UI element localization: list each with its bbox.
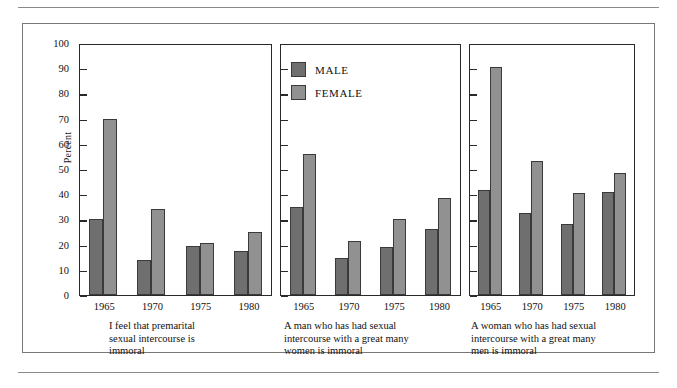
axis-tick-mark bbox=[470, 145, 477, 146]
bar-female bbox=[531, 161, 543, 295]
axis-tick-mark bbox=[80, 195, 87, 196]
axis-tick-mark bbox=[80, 170, 87, 171]
bar-female bbox=[490, 67, 502, 295]
bar-male bbox=[425, 229, 438, 295]
panel-caption: I feel that premaritalsexual intercourse… bbox=[109, 320, 195, 358]
axis-tick-mark bbox=[281, 246, 288, 247]
bar-female bbox=[151, 209, 165, 295]
bottom-horizontal-rule bbox=[18, 372, 659, 373]
x-tick-label: 1970 bbox=[522, 301, 543, 312]
axis-tick-mark bbox=[80, 145, 87, 146]
axis-tick-mark bbox=[80, 120, 87, 121]
bar-female bbox=[573, 193, 585, 295]
x-axis-labels: 1965197019751980 bbox=[281, 301, 460, 315]
bar-female bbox=[348, 241, 361, 295]
x-tick-label: 1980 bbox=[429, 301, 450, 312]
bar-male bbox=[137, 260, 151, 295]
y-tick-label: 10 bbox=[45, 266, 69, 276]
chart-panel: 1965197019751980 bbox=[79, 44, 272, 296]
axis-tick-mark bbox=[470, 271, 477, 272]
bar-female bbox=[393, 219, 406, 295]
legend-item-female: FEMALE bbox=[291, 85, 363, 100]
panel-caption-line: intercourse with a great many bbox=[284, 333, 409, 346]
y-tick-label: 90 bbox=[45, 64, 69, 74]
bar-male bbox=[519, 213, 531, 295]
bar-male bbox=[186, 246, 200, 295]
bar-female bbox=[248, 232, 262, 295]
y-tick-label: 70 bbox=[45, 115, 69, 125]
legend-label-female: FEMALE bbox=[315, 87, 363, 99]
panel-caption-line: intercourse with a great many bbox=[471, 333, 596, 346]
axis-tick-mark bbox=[281, 69, 288, 70]
panel-plot-area bbox=[470, 45, 634, 295]
bar-female bbox=[200, 243, 214, 295]
x-tick-label: 1965 bbox=[94, 301, 115, 312]
panel-caption: A man who has had sexualintercourse with… bbox=[284, 320, 409, 358]
axis-tick-mark bbox=[80, 246, 87, 247]
bar-female bbox=[303, 154, 316, 295]
axis-tick-mark bbox=[281, 145, 288, 146]
axis-tick-mark bbox=[470, 246, 477, 247]
axis-tick-mark bbox=[281, 120, 288, 121]
axis-tick-mark bbox=[470, 94, 477, 95]
chart-panel: 1965197019751980 bbox=[469, 44, 635, 296]
axis-tick-mark bbox=[281, 170, 288, 171]
axis-tick-mark bbox=[80, 69, 87, 70]
y-tick-label: 50 bbox=[45, 165, 69, 175]
figure-frame: Percent 1009080706050403020100 196519701… bbox=[22, 23, 655, 353]
panel-caption: A woman who has had sexualintercourse wi… bbox=[471, 320, 596, 358]
bar-male bbox=[478, 190, 490, 295]
axis-tick-mark bbox=[281, 271, 288, 272]
axis-tick-mark bbox=[80, 44, 87, 45]
x-tick-label: 1975 bbox=[384, 301, 405, 312]
bar-male bbox=[89, 219, 103, 295]
bar-female bbox=[103, 119, 117, 295]
bar-male bbox=[234, 251, 248, 295]
axis-tick-mark bbox=[281, 220, 288, 221]
axis-tick-mark bbox=[281, 44, 288, 45]
legend-item-male: MALE bbox=[291, 62, 363, 77]
panel-caption-line: I feel that premarital bbox=[109, 320, 195, 333]
x-tick-label: 1965 bbox=[480, 301, 501, 312]
x-axis-labels: 1965197019751980 bbox=[470, 301, 634, 315]
y-axis-tick-labels: 1009080706050403020100 bbox=[43, 24, 69, 354]
bar-male bbox=[335, 258, 348, 295]
axis-tick-mark bbox=[470, 170, 477, 171]
bar-female bbox=[614, 173, 626, 295]
x-tick-label: 1970 bbox=[338, 301, 359, 312]
y-tick-label: 0 bbox=[45, 291, 69, 301]
panel-caption-line: A man who has had sexual bbox=[284, 320, 409, 333]
axis-tick-mark bbox=[470, 195, 477, 196]
axis-tick-mark bbox=[470, 120, 477, 121]
x-tick-label: 1975 bbox=[563, 301, 584, 312]
axis-tick-mark bbox=[470, 69, 477, 70]
legend: MALE FEMALE bbox=[291, 62, 363, 108]
plot-wrapper: Percent 1009080706050403020100 196519701… bbox=[23, 24, 656, 354]
top-horizontal-rule bbox=[18, 7, 659, 8]
panel-caption-line: women is immoral bbox=[284, 345, 409, 358]
y-tick-label: 20 bbox=[45, 241, 69, 251]
y-tick-label: 80 bbox=[45, 89, 69, 99]
y-tick-label: 40 bbox=[45, 190, 69, 200]
x-tick-label: 1980 bbox=[605, 301, 626, 312]
panel-caption-line: immoral bbox=[109, 345, 195, 358]
x-tick-label: 1980 bbox=[238, 301, 259, 312]
bar-male bbox=[380, 247, 393, 295]
axis-tick-mark bbox=[281, 94, 288, 95]
x-tick-label: 1965 bbox=[293, 301, 314, 312]
legend-swatch-female-icon bbox=[291, 85, 306, 100]
y-tick-label: 100 bbox=[45, 39, 69, 49]
panel-caption-line: A woman who has had sexual bbox=[471, 320, 596, 333]
axis-tick-mark bbox=[470, 220, 477, 221]
panel-caption-line: men is immoral bbox=[471, 345, 596, 358]
bar-male bbox=[561, 224, 573, 295]
axis-tick-mark bbox=[80, 296, 87, 297]
panel-caption-line: sexual intercourse is bbox=[109, 333, 195, 346]
panel-plot-area bbox=[80, 45, 271, 295]
legend-label-male: MALE bbox=[315, 64, 349, 76]
axis-tick-mark bbox=[470, 44, 477, 45]
figure-page: Percent 1009080706050403020100 196519701… bbox=[0, 0, 677, 388]
y-tick-label: 60 bbox=[45, 140, 69, 150]
axis-tick-mark bbox=[80, 220, 87, 221]
bar-male bbox=[290, 207, 303, 295]
